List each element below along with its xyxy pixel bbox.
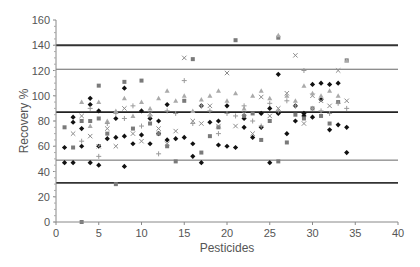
data-point-diamond [122, 86, 127, 91]
data-point-x [182, 56, 186, 60]
data-point-triangle [190, 108, 195, 113]
y-tick-label: 20 [38, 191, 50, 203]
data-point-diamond [276, 72, 281, 77]
data-point-plus [216, 131, 221, 136]
data-point-x [208, 104, 212, 108]
data-point-square [71, 146, 75, 150]
x-tick-label: 10 [135, 227, 147, 239]
data-point-x [139, 139, 143, 143]
data-point-diamond [224, 103, 229, 108]
data-point-diamond [327, 127, 332, 132]
data-point-triangle [207, 93, 212, 98]
data-point-diamond [71, 120, 76, 125]
data-point-diamond [122, 134, 127, 139]
chart-canvas: 0204060801001201401600510152025303540 Pe… [0, 0, 420, 267]
y-tick-label: 100 [32, 90, 50, 102]
data-point-diamond [336, 122, 341, 127]
data-point-plus [96, 154, 101, 159]
y-tick-label: 40 [38, 166, 50, 178]
data-point-plus [156, 151, 161, 156]
data-point-diamond [310, 115, 315, 120]
y-tick-label: 80 [38, 115, 50, 127]
data-point-x [174, 129, 178, 133]
x-tick-label: 25 [264, 227, 276, 239]
x-tick-label: 0 [53, 227, 59, 239]
data-point-square [251, 111, 255, 115]
data-point-triangle [148, 106, 153, 111]
data-point-square [182, 99, 186, 103]
data-points [62, 33, 349, 224]
data-point-triangle [225, 98, 230, 103]
data-point-x [259, 95, 263, 99]
data-point-plus [79, 139, 84, 144]
data-point-diamond [71, 115, 76, 120]
x-axis-label: Pesticides [200, 241, 255, 255]
data-point-square [328, 122, 332, 126]
data-point-square [97, 84, 101, 88]
data-point-triangle [122, 96, 127, 101]
data-point-triangle [139, 100, 144, 105]
data-point-plus [199, 103, 204, 108]
data-point-x [199, 121, 203, 125]
data-point-x [105, 126, 109, 130]
x-tick-label: 5 [96, 227, 102, 239]
data-point-triangle [156, 96, 161, 101]
data-point-square [63, 125, 67, 129]
data-point-triangle [130, 113, 135, 118]
data-point-diamond [199, 160, 204, 165]
data-point-triangle [319, 93, 324, 98]
data-point-square [131, 127, 135, 131]
y-tick-label: 0 [44, 216, 50, 228]
data-point-square [268, 119, 272, 123]
data-point-x [268, 114, 272, 118]
data-point-diamond [156, 118, 161, 123]
y-tick-label: 120 [32, 65, 50, 77]
data-point-square [148, 122, 152, 126]
data-point-triangle [259, 88, 264, 93]
data-point-triangle [276, 33, 281, 38]
data-point-square [319, 114, 323, 118]
data-point-diamond [113, 116, 118, 121]
data-point-diamond [284, 131, 289, 136]
data-point-square [208, 134, 212, 138]
data-point-diamond [62, 160, 67, 165]
data-point-x [71, 131, 75, 135]
data-point-diamond [267, 160, 272, 165]
x-tick-label: 30 [306, 227, 318, 239]
data-point-diamond [88, 96, 93, 101]
data-point-diamond [147, 141, 152, 146]
data-point-x [345, 99, 349, 103]
x-tick-label: 40 [392, 227, 404, 239]
data-point-diamond [242, 125, 247, 130]
data-point-diamond [224, 144, 229, 149]
data-point-square [234, 38, 238, 42]
data-point-diamond [165, 102, 170, 107]
data-point-plus [284, 98, 289, 103]
data-point-x [122, 106, 126, 110]
data-point-diamond [267, 106, 272, 111]
data-point-diamond [122, 164, 127, 169]
y-tick-label: 160 [32, 14, 50, 26]
data-point-diamond [71, 160, 76, 165]
data-point-triangle [327, 88, 332, 93]
data-point-triangle [199, 97, 204, 102]
data-point-diamond [79, 144, 84, 149]
x-tick-label: 20 [221, 227, 233, 239]
data-point-plus [242, 103, 247, 108]
data-point-x [302, 121, 306, 125]
data-point-square [140, 79, 144, 83]
data-point-square [199, 151, 203, 155]
data-point-triangle [267, 96, 272, 101]
data-point-diamond [139, 132, 144, 137]
data-point-diamond [79, 126, 84, 131]
data-point-x [233, 124, 237, 128]
data-point-x [131, 131, 135, 135]
data-point-triangle [293, 98, 298, 103]
data-point-triangle [216, 88, 221, 93]
data-point-diamond [318, 81, 323, 86]
data-point-plus [88, 106, 93, 111]
data-point-x [293, 53, 297, 57]
y-tick-label: 140 [32, 39, 50, 51]
data-point-x [114, 144, 118, 148]
data-point-diamond [113, 135, 118, 140]
